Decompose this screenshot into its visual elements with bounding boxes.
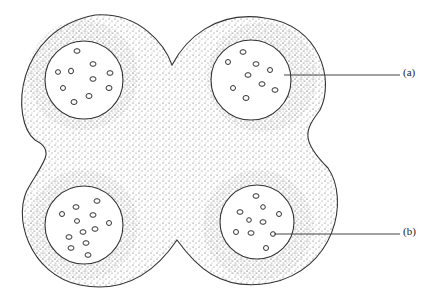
circle-bottom-left [45, 186, 123, 264]
label-b: (b) [403, 225, 416, 237]
cross-section-diagram [0, 0, 434, 305]
circle-bottom-right [220, 185, 294, 259]
circle-top-left [45, 41, 123, 119]
label-a: (a) [403, 66, 415, 78]
circle-top-right [211, 40, 291, 120]
